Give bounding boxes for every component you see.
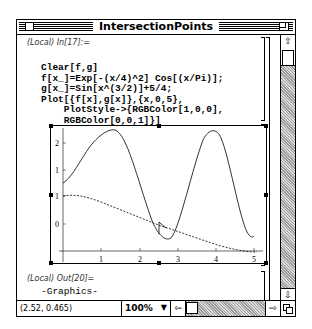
input-code[interactable]: Clear[f,g]f[x_]=Exp[-(x/4)^2] Cos[(x/Pi)…	[41, 63, 223, 126]
resize-handle[interactable]	[157, 124, 161, 128]
zoom-box-button[interactable]	[279, 22, 289, 31]
plot-svg: 1 2 3 4 5 2 1 1 0	[51, 126, 268, 265]
status-bar: (2.52, 0.465) 100% ▼ ⇦ ⇨	[17, 300, 295, 316]
notebook-content: (Local) In[17]:= Clear[f,g]f[x_]=Exp[-(x…	[17, 35, 280, 302]
notebook-window: IntersectionPoints (Local) In[17]:= Clea…	[16, 19, 296, 317]
grow-icon	[281, 302, 295, 316]
f-curve	[63, 195, 257, 252]
horizontal-scroll-track[interactable]	[185, 301, 266, 316]
svg-text:2: 2	[55, 139, 59, 148]
chevron-down-icon: ▼	[161, 301, 167, 315]
vertical-scrollbar[interactable]: ⇧ ⇩	[280, 35, 295, 302]
title-bar[interactable]: IntersectionPoints	[17, 20, 295, 35]
resize-handle[interactable]	[49, 124, 53, 128]
svg-text:1: 1	[55, 192, 59, 201]
scroll-right-icon[interactable]: ⇨	[266, 302, 280, 315]
resize-handle[interactable]	[49, 193, 53, 197]
svg-text:1: 1	[55, 166, 59, 175]
input-label: (Local) In[17]:=	[27, 38, 90, 47]
svg-text:1: 1	[99, 255, 103, 264]
horizontal-scroll-thumb[interactable]	[186, 302, 198, 314]
svg-text:4: 4	[214, 255, 218, 264]
code-line: Clear[f,g]	[41, 63, 223, 74]
resize-handle[interactable]	[49, 261, 53, 265]
horizontal-scrollbar[interactable]: ⇦ ⇨	[171, 301, 280, 316]
vertical-scroll-track[interactable]	[281, 65, 295, 288]
code-line: PlotStyle->{RGBColor[1,0,0],	[41, 105, 223, 116]
output-label: (Local) Out[20]=	[27, 274, 94, 283]
input-cell-bracket[interactable]	[261, 37, 265, 121]
svg-text:2: 2	[138, 255, 142, 264]
resize-handle[interactable]	[264, 193, 268, 197]
output-value[interactable]: -Graphics-	[41, 286, 98, 297]
scroll-left-icon[interactable]: ⇦	[171, 302, 185, 315]
cursor-coordinates: (2.52, 0.465)	[20, 302, 72, 315]
resize-handle[interactable]	[264, 124, 268, 128]
code-line: g[x_]=Sin[x^(3/2)]+5/4;	[41, 84, 223, 95]
resize-handle[interactable]	[264, 261, 268, 265]
vertical-scroll-thumb[interactable]	[282, 50, 294, 66]
svg-text:5: 5	[252, 255, 256, 264]
plot-graphic[interactable]: 1 2 3 4 5 2 1 1 0	[50, 125, 267, 264]
cursor-crosshair	[159, 222, 166, 234]
output-cell-bracket[interactable]	[261, 271, 265, 301]
zoom-level-dropdown[interactable]: 100% ▼	[121, 301, 171, 316]
svg-text:0: 0	[55, 220, 59, 229]
scroll-up-icon[interactable]: ⇧	[281, 35, 295, 48]
window-title: IntersectionPoints	[93, 20, 219, 34]
resize-handle[interactable]	[157, 261, 161, 265]
svg-text:3: 3	[176, 255, 180, 264]
close-box-button[interactable]	[25, 22, 34, 31]
zoom-level-value: 100%	[125, 303, 153, 313]
resize-grow-box[interactable]	[280, 301, 295, 316]
g-curve	[63, 130, 254, 239]
